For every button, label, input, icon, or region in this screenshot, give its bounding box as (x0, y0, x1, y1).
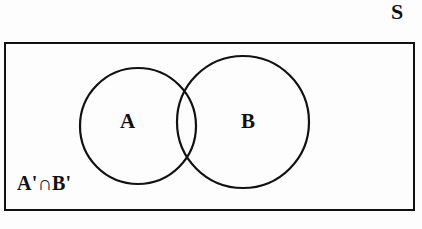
complement-region-label: A'∩B' (17, 173, 71, 193)
set-b-label: B (241, 111, 255, 132)
venn-diagram-canvas (0, 0, 422, 229)
universal-set-label: S (391, 1, 403, 23)
set-a-circle (80, 68, 196, 184)
venn-diagram-figure: S A B A'∩B' (0, 0, 422, 229)
set-a-label: A (120, 111, 135, 132)
